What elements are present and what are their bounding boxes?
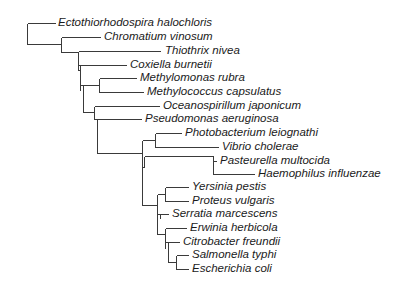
taxon-label-methylomonas: Methylomonas rubra bbox=[140, 71, 245, 83]
taxon-label-pseudomonas: Pseudomonas aeruginosa bbox=[145, 112, 279, 124]
taxon-label-erwinia: Erwinia herbicola bbox=[190, 221, 278, 233]
taxon-labels: Ectothiorhodospira halochloris Chromatiu… bbox=[58, 16, 381, 274]
taxon-label-ectothiorhodospira: Ectothiorhodospira halochloris bbox=[58, 16, 212, 28]
taxon-label-proteus: Proteus vulgaris bbox=[192, 194, 275, 206]
taxon-label-oceanospirillum: Oceanospirillum japonicum bbox=[163, 99, 301, 111]
taxon-label-methylococcus: Methylococcus capsulatus bbox=[147, 85, 281, 97]
phylogenetic-tree: Ectothiorhodospira halochloris Chromatiu… bbox=[0, 0, 394, 291]
taxon-label-haemophilus: Haemophilus influenzae bbox=[258, 167, 381, 179]
taxon-label-pasteurella: Pasteurella multocida bbox=[220, 154, 330, 166]
taxon-label-escherichia: Escherichia coli bbox=[192, 262, 272, 274]
taxon-label-citrobacter: Citrobacter freundii bbox=[183, 235, 281, 247]
taxon-label-vibrio: Vibrio cholerae bbox=[222, 140, 299, 152]
taxon-label-photobacterium: Photobacterium leiognathi bbox=[185, 126, 318, 138]
taxon-label-yersinia: Yersinia pestis bbox=[192, 180, 266, 192]
taxon-label-thiothrix: Thiothrix nivea bbox=[165, 44, 240, 56]
taxon-label-serratia: Serratia marcescens bbox=[172, 207, 278, 219]
taxon-label-coxiella: Coxiella burnetii bbox=[130, 58, 212, 70]
taxon-label-salmonella: Salmonella typhi bbox=[192, 248, 277, 260]
taxon-label-chromatium: Chromatium vinosum bbox=[104, 30, 213, 42]
